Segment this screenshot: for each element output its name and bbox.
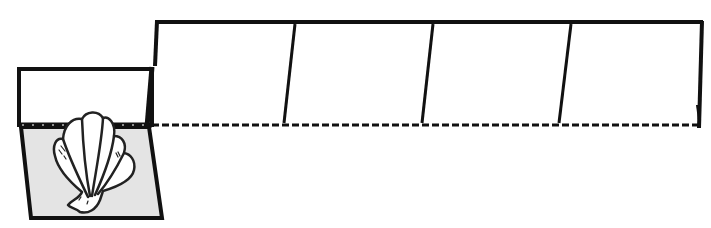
paper-template [0, 0, 711, 228]
long-strip [147, 21, 703, 128]
strip-divider-2 [422, 24, 433, 123]
template-drawing [0, 0, 711, 228]
strip-divider-1 [284, 24, 295, 123]
strip-divider-3 [559, 24, 571, 123]
